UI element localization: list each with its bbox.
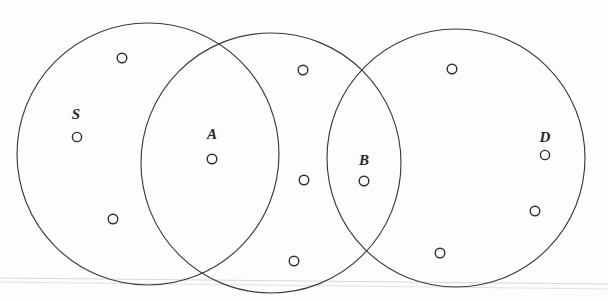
region-label-s: S [72, 107, 80, 122]
node-unlabeled-1 [117, 53, 127, 63]
region-label-a: A [207, 127, 217, 142]
diagram-canvas [0, 0, 608, 301]
node-unlabeled-5 [289, 256, 299, 266]
node-unlabeled-4 [299, 175, 309, 185]
node-b [359, 176, 369, 186]
node-unlabeled-8 [435, 248, 445, 258]
node-unlabeled-2 [108, 214, 118, 224]
region-label-b: B [359, 153, 369, 168]
node-unlabeled-3 [298, 65, 308, 75]
region-label-d: D [540, 130, 551, 145]
node-d [540, 150, 549, 159]
coverage-circle-left [17, 23, 279, 285]
node-a [207, 154, 217, 164]
venn-diagram-figure: S A B D [0, 0, 608, 301]
node-s [72, 132, 81, 141]
node-unlabeled-7 [530, 206, 540, 216]
node-unlabeled-6 [447, 64, 457, 74]
